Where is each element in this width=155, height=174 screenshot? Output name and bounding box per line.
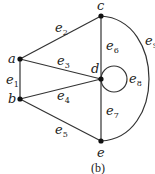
node-label-b: b (8, 91, 16, 106)
edge-label-e6: e6 (106, 38, 119, 55)
node-label-e: e (97, 145, 105, 160)
edge-label-e8: e8 (129, 71, 142, 88)
edge-label-e3: e3 (57, 53, 70, 70)
edge-label-e2: e2 (55, 20, 68, 37)
edge-label-e5: e5 (55, 122, 68, 139)
node-label-d: d (91, 61, 99, 76)
edge-e8-loop (101, 66, 127, 92)
node-d (98, 76, 103, 81)
edge-label-e4: e4 (57, 88, 70, 105)
figure-caption: (b) (91, 161, 105, 174)
edge-label-e7: e7 (106, 103, 119, 120)
node-label-a: a (8, 51, 16, 66)
node-c (98, 13, 103, 18)
edge-label-e1: e1 (6, 72, 19, 89)
node-e (98, 138, 103, 143)
node-a (17, 56, 22, 61)
graph-diagram: a b c d e e1 e2 e3 e4 e5 e6 e7 e8 e9 (b) (0, 0, 155, 174)
edge-e9-arc (101, 16, 149, 141)
node-label-c: c (97, 0, 105, 13)
edge-label-e9: e9 (145, 33, 155, 50)
node-b (17, 96, 22, 101)
